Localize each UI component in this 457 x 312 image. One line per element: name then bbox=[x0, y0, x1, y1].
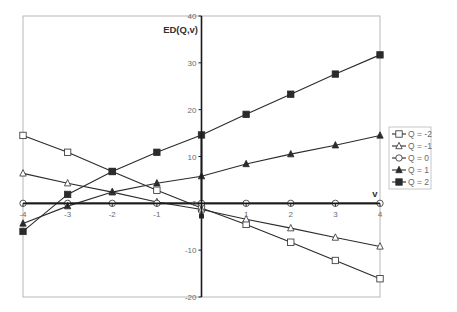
legend-label: Q = -1 bbox=[408, 141, 432, 151]
x-tick-label: 2 bbox=[289, 210, 294, 219]
x-tick-label: -3 bbox=[64, 210, 72, 219]
y-tick-label: 0 bbox=[192, 199, 197, 208]
y-tick-label: -20 bbox=[185, 293, 197, 302]
data-point bbox=[332, 257, 338, 263]
legend-label: Q = 0 bbox=[408, 153, 429, 163]
data-point bbox=[20, 228, 26, 234]
x-tick-label: -2 bbox=[109, 210, 117, 219]
data-point bbox=[154, 149, 160, 155]
y-axis-title: ED(Q,v) bbox=[163, 24, 198, 35]
legend-item: Q = 2 bbox=[392, 177, 429, 187]
y-tick-label: 30 bbox=[188, 59, 197, 68]
x-tick-label: 4 bbox=[378, 210, 383, 219]
y-tick-label: 40 bbox=[188, 12, 197, 21]
y-tick-label: 10 bbox=[188, 153, 197, 162]
data-point bbox=[377, 276, 383, 282]
legend-label: Q = 2 bbox=[408, 177, 429, 187]
data-point bbox=[288, 239, 294, 245]
x-tick-label: -1 bbox=[153, 210, 161, 219]
legend-label: Q = -2 bbox=[408, 129, 432, 139]
data-point bbox=[64, 191, 70, 197]
data-point bbox=[377, 52, 383, 58]
data-point bbox=[64, 149, 70, 155]
x-tick-label: -4 bbox=[19, 210, 27, 219]
legend: Q = -2Q = -1Q = 0Q = 1Q = 2 bbox=[389, 127, 432, 189]
data-point bbox=[288, 91, 294, 97]
legend-label: Q = 1 bbox=[408, 165, 429, 175]
legend-item: Q = -2 bbox=[392, 129, 432, 139]
x-tick-label: 1 bbox=[244, 210, 249, 219]
x-axis-title: v bbox=[372, 188, 378, 199]
legend-marker bbox=[396, 155, 402, 161]
data-point bbox=[109, 168, 115, 174]
data-point bbox=[20, 132, 26, 138]
data-point bbox=[154, 187, 160, 193]
data-point bbox=[243, 111, 249, 117]
x-tick-label: 3 bbox=[333, 210, 338, 219]
legend-marker bbox=[396, 179, 402, 185]
y-tick-label: 20 bbox=[188, 106, 197, 115]
y-tick-label: -10 bbox=[185, 246, 197, 255]
data-point bbox=[332, 71, 338, 77]
line-chart: 403020100-10-20-4-3-2-11234 ED(Q,v) v Q … bbox=[0, 0, 457, 312]
legend-marker bbox=[396, 131, 402, 137]
